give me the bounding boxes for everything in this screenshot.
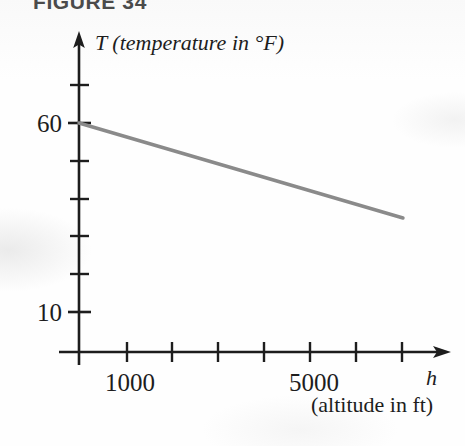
- x-axis-group: 1000 5000 h: [59, 342, 451, 396]
- chart-plot-area: 60 10 T (temperature in °F) 1000 5000 h …: [0, 0, 465, 446]
- x-axis-label: h: [426, 365, 437, 390]
- y-tick-label-60: 60: [37, 110, 62, 137]
- temperature-altitude-line: [79, 123, 403, 218]
- data-series-group: [79, 123, 403, 218]
- y-axis-group: 60 10 T (temperature in °F): [37, 30, 284, 365]
- y-axis-label: T (temperature in °F): [95, 30, 284, 55]
- figure-container: FIGURE 34 60 10 T (temperature in °F): [0, 0, 465, 446]
- x-axis-caption: (altitude in ft): [311, 392, 433, 417]
- x-tick-label-1000: 1000: [105, 369, 155, 396]
- y-tick-label-10: 10: [37, 299, 62, 326]
